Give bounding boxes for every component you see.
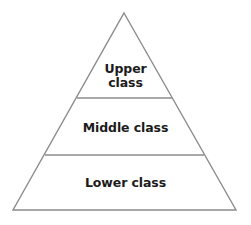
tier-upper-label-line1: Upper [0, 62, 251, 76]
tier-middle-class: Middle class [0, 121, 251, 135]
class-pyramid [0, 0, 251, 225]
tier-upper-label-line2: class [0, 76, 251, 90]
tier-lower-class: Lower class [0, 176, 251, 190]
tier-middle-label: Middle class [83, 120, 169, 135]
tier-upper-class: Upper class [0, 62, 251, 90]
tier-lower-label: Lower class [85, 175, 166, 190]
